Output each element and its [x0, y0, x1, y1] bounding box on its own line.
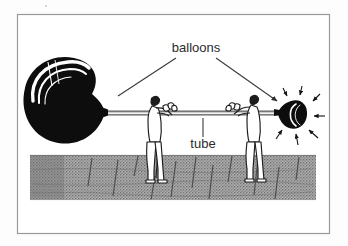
scan-speck	[45, 5, 47, 7]
label-tube: tube	[190, 136, 215, 151]
label-balloons: balloons	[172, 40, 221, 55]
wooden-floor	[30, 155, 316, 200]
illustration-canvas: balloons tube	[0, 0, 348, 246]
figure-container: balloons tube	[0, 0, 348, 246]
